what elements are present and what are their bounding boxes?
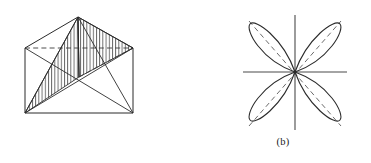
petal-lower-right [295, 72, 341, 121]
figure-plate: (a) (b) [0, 0, 371, 163]
figure-caption-b: (b) [190, 136, 371, 147]
petal-lower-left [249, 72, 295, 121]
hatched-region-upper-right [78, 17, 133, 77]
figure-panel-b: (b) [185, 0, 371, 163]
figure-panel-a: (a) [0, 0, 185, 163]
figure-caption-a: (a) [0, 136, 75, 147]
